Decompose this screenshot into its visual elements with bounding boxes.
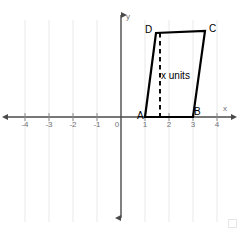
x-tick-label--1: -1 (90, 120, 104, 129)
x-tick-label-0: 0 (110, 120, 124, 129)
figure-canvas: -4 -3 -2 -1 0 1 2 3 4 x y A B C D x unit… (0, 0, 241, 232)
vertex-label-a: A (137, 110, 144, 121)
x-tick-label--2: -2 (66, 120, 80, 129)
vertex-label-b: B (194, 106, 201, 117)
x-tick-label-3: 3 (186, 120, 200, 129)
x-axis-label: x (223, 104, 227, 113)
vertex-label-d: D (145, 24, 152, 35)
x-tick-label-4: 4 (210, 120, 224, 129)
y-axis-label: y (126, 12, 130, 21)
x-tick-label--3: -3 (42, 120, 56, 129)
x-tick-label--4: -4 (18, 120, 32, 129)
height-annotation-label: x units (161, 70, 190, 81)
x-tick-label-1: 1 (138, 120, 152, 129)
x-tick-label-2: 2 (162, 120, 176, 129)
corner-watermark (228, 219, 237, 228)
coordinate-plane-svg (0, 0, 241, 232)
vertex-label-c: C (209, 23, 216, 34)
